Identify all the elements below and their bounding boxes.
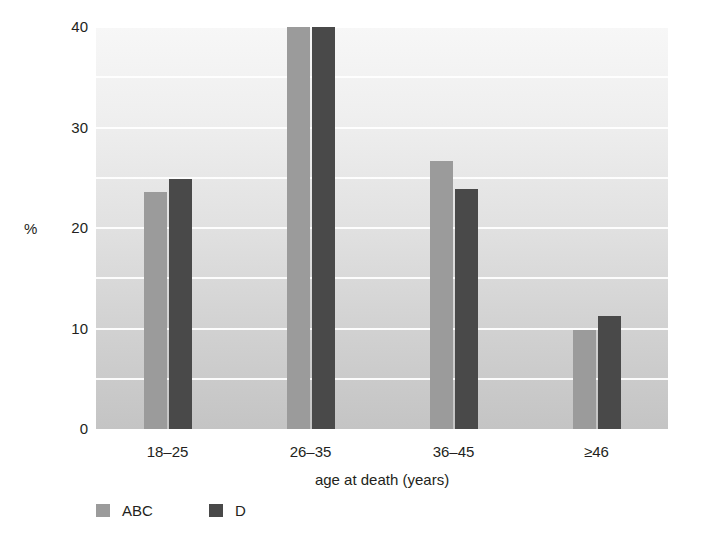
bar-abc-1	[287, 27, 310, 429]
bar-abc-3	[573, 330, 596, 429]
bar-d-3	[598, 316, 621, 429]
legend-item-abc[interactable]: ABC	[96, 503, 153, 518]
bar-group	[287, 27, 335, 429]
y-axis-tick-label: 40	[26, 19, 88, 34]
x-axis-tick-label: ≥46	[537, 444, 657, 460]
y-axis-tick-label: 30	[26, 120, 88, 135]
legend-swatch-icon	[96, 504, 110, 517]
legend-label: D	[235, 503, 246, 518]
legend-swatch-icon	[209, 504, 223, 517]
legend-item-d[interactable]: D	[209, 503, 246, 518]
y-axis-tick-label: 10	[26, 321, 88, 336]
bar-group	[573, 27, 621, 429]
x-axis-tick-label: 36–45	[394, 444, 514, 460]
bar-abc-2	[430, 161, 453, 429]
bar-chart-figure: 010203040 % 18–2526–3536–45≥46 age at de…	[0, 0, 702, 551]
x-axis-tick-label: 18–25	[108, 444, 228, 460]
y-axis-title: %	[24, 221, 37, 236]
plot-area	[96, 27, 668, 429]
bar-group	[144, 27, 192, 429]
y-axis-tick-label: 0	[26, 421, 88, 436]
x-axis-tick-label: 26–35	[251, 444, 371, 460]
bar-d-2	[455, 189, 478, 429]
bar-d-0	[169, 179, 192, 429]
bar-group	[430, 27, 478, 429]
bar-abc-0	[144, 192, 167, 429]
legend-label: ABC	[122, 503, 153, 518]
x-axis-title: age at death (years)	[96, 472, 668, 488]
x-axis-tick-labels: 18–2526–3536–45≥46	[96, 444, 668, 464]
bar-d-1	[312, 27, 335, 429]
